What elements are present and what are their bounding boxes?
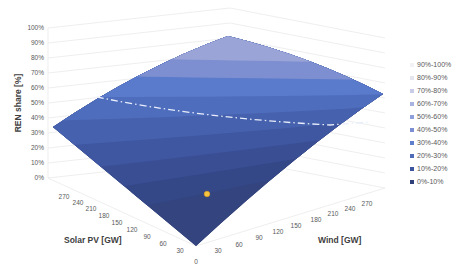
legend-label: 70%-80% [417, 87, 447, 94]
legend-swatch [410, 115, 414, 119]
legend-swatch [410, 154, 414, 158]
legend-item: 0%-10% [410, 175, 451, 188]
legend-swatch [410, 141, 414, 145]
legend-item: 10%-20% [410, 162, 451, 175]
svg-text:210: 210 [86, 205, 97, 212]
legend-item: 40%-50% [410, 123, 451, 136]
svg-text:0: 0 [194, 258, 198, 265]
svg-text:90: 90 [255, 234, 263, 241]
legend-item: 70%-80% [410, 84, 451, 97]
legend-swatch [410, 180, 414, 184]
svg-text:120: 120 [127, 226, 138, 233]
svg-text:80%: 80% [31, 54, 44, 61]
legend-item: 60%-70% [410, 97, 451, 110]
svg-text:100%: 100% [27, 24, 44, 31]
z-axis-ticks: 100% 90% 80% 70% 60% 50% 40% 30% 20% 10%… [27, 24, 44, 181]
svg-text:0%: 0% [35, 174, 45, 181]
svg-text:240: 240 [345, 205, 356, 212]
wind-axis-ticks: 30 60 90 120 150 180 210 240 270 [214, 200, 372, 254]
legend-label: 50%-60% [417, 113, 447, 120]
svg-text:60: 60 [235, 241, 243, 248]
surface-chart: 100% 90% 80% 70% 60% 50% 40% 30% 20% 10%… [0, 0, 464, 271]
svg-text:30%: 30% [31, 129, 44, 136]
legend-item: 20%-30% [410, 149, 451, 162]
svg-text:70%: 70% [31, 69, 44, 76]
svg-text:210: 210 [328, 210, 339, 217]
svg-text:30: 30 [176, 247, 184, 254]
legend-item: 50%-60% [410, 110, 451, 123]
svg-text:270: 270 [59, 193, 70, 200]
legend-label: 60%-70% [417, 100, 447, 107]
current-point-marker [204, 191, 210, 197]
legend-swatch [410, 167, 414, 171]
svg-text:30: 30 [214, 247, 222, 254]
svg-text:60: 60 [159, 240, 167, 247]
svg-text:270: 270 [362, 200, 373, 207]
svg-text:240: 240 [73, 199, 84, 206]
svg-text:90: 90 [143, 233, 151, 240]
svg-text:60%: 60% [31, 84, 44, 91]
svg-text:50%: 50% [31, 99, 44, 106]
legend-swatch [410, 102, 414, 106]
legend-label: 0%-10% [417, 178, 443, 185]
legend-label: 10%-20% [417, 165, 447, 172]
z-axis-title: REN share [%] [13, 74, 23, 133]
svg-text:150: 150 [291, 222, 302, 229]
svg-text:180: 180 [311, 216, 322, 223]
wind-axis-title: Wind [GW] [318, 235, 362, 245]
legend-label: 80%-90% [417, 74, 447, 81]
svg-text:20%: 20% [31, 144, 44, 151]
legend-swatch [410, 76, 414, 80]
legend-label: 20%-30% [417, 152, 447, 159]
legend-swatch [410, 89, 414, 93]
legend-item: 90%-100% [410, 58, 451, 71]
legend: 90%-100% 80%-90% 70%-80% 60%-70% 50%-60%… [410, 58, 451, 188]
legend-label: 40%-50% [417, 126, 447, 133]
svg-text:40%: 40% [31, 114, 44, 121]
legend-item: 80%-90% [410, 71, 451, 84]
legend-item: 30%-40% [410, 136, 451, 149]
legend-swatch [410, 128, 414, 132]
svg-text:150: 150 [112, 219, 123, 226]
legend-label: 90%-100% [417, 61, 451, 68]
svg-text:90%: 90% [31, 39, 44, 46]
svg-text:120: 120 [273, 228, 284, 235]
solar-axis-title: Solar PV [GW] [64, 235, 122, 245]
svg-text:10%: 10% [31, 159, 44, 166]
legend-swatch [410, 63, 414, 67]
svg-text:180: 180 [99, 212, 110, 219]
legend-label: 30%-40% [417, 139, 447, 146]
